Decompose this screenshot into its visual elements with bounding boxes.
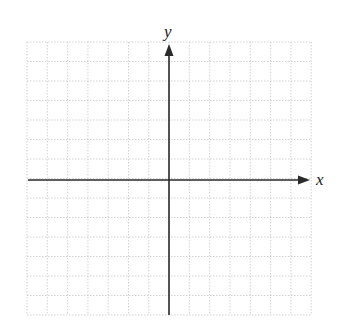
x-axis-label: x [316, 171, 324, 188]
axes [28, 44, 310, 315]
y-axis-label: y [164, 23, 172, 40]
coordinate-plane [0, 0, 347, 324]
y-axis-arrow-icon [165, 44, 174, 56]
x-axis-arrow-icon [298, 176, 310, 185]
